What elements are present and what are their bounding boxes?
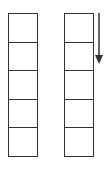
left-cell-5: [8, 127, 38, 157]
right-cell-4: [64, 99, 94, 129]
right-cell-2: [64, 42, 94, 72]
right-cell-5: [64, 127, 94, 157]
right-cell-column: [64, 13, 94, 157]
right-cell-1: [64, 13, 94, 43]
left-cell-3: [8, 70, 38, 100]
right-cell-3: [64, 70, 94, 100]
down-arrow-icon: [93, 12, 105, 66]
left-cell-2: [8, 42, 38, 72]
left-cell-column: [8, 13, 38, 157]
left-cell-1: [8, 13, 38, 43]
left-cell-4: [8, 99, 38, 129]
